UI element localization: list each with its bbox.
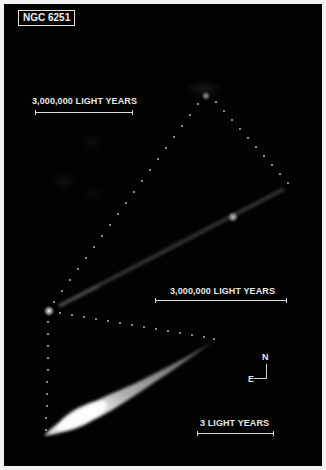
compass-north: N xyxy=(262,352,269,362)
figure-frame: NGC 6251 3,000,000 LIGHT YEARS 3,000,000… xyxy=(4,4,322,466)
compass-east-arm xyxy=(254,378,267,379)
scale-bar-middle xyxy=(155,298,287,303)
scale-label-top: 3,000,000 LIGHT YEARS xyxy=(32,96,137,106)
scale-label-bottom: 3 LIGHT YEARS xyxy=(200,418,269,428)
compass: N E xyxy=(254,352,274,382)
compass-east: E xyxy=(248,374,254,384)
figure-title: NGC 6251 xyxy=(18,10,75,26)
scale-label-middle: 3,000,000 LIGHT YEARS xyxy=(170,286,275,296)
compass-north-arm xyxy=(266,364,267,379)
scale-bar-top xyxy=(35,110,133,115)
astronomy-image xyxy=(4,4,322,466)
scale-bar-bottom xyxy=(197,431,274,436)
